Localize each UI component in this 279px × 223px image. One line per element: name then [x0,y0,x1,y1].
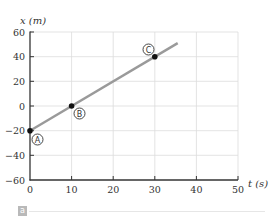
x-tick-label: 10 [66,184,78,195]
y-tick-label: −20 [5,125,25,136]
x-axis-title: t (s) [248,178,268,189]
point-b [69,103,75,109]
y-tick-label: −60 [5,175,25,186]
x-tick-label: 40 [190,184,202,195]
y-tick-label: 20 [13,76,25,87]
grid [30,32,238,180]
y-tick-labels: 60 40 20 0 −20 −40 −60 [5,27,25,186]
figure-part-badge: a [18,206,27,216]
caption-divider [29,211,265,212]
x-tick-label: 50 [232,184,244,195]
chart-canvas: 60 40 20 0 −20 −40 −60 0 10 20 30 40 50 … [0,0,279,223]
y-axis-title: x (m) [20,15,46,26]
point-c [152,54,158,60]
x-tick-label: 20 [107,184,119,195]
x-tick-labels: 0 10 20 30 40 50 [27,184,244,195]
y-tick-label: 40 [13,51,25,62]
y-tick-label: −40 [5,150,25,161]
y-tick-label: 60 [13,27,25,38]
y-tick-label: 0 [19,101,25,112]
label-c: C [146,46,152,55]
label-b: B [77,110,83,119]
label-a: A [35,136,41,145]
point-a [27,128,33,134]
x-tick-label: 0 [27,184,33,195]
x-tick-label: 30 [149,184,161,195]
